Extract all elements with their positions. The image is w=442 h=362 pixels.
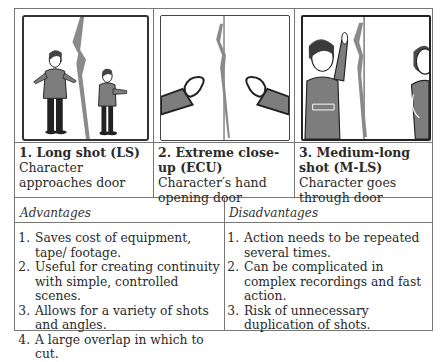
medium-long-shot-panel — [301, 15, 431, 141]
list-item: A large overlap in which to cut. — [34, 333, 220, 362]
hand-right — [246, 77, 289, 114]
long-shot-illustration — [24, 17, 147, 139]
shot-title: 3. Medium-long shot (M-LS) — [299, 145, 433, 175]
extreme-closeup-panel — [160, 15, 290, 141]
medium-long-shot-illustration — [303, 17, 429, 139]
list-item: Risk of unnecessary duplication of shots… — [243, 304, 433, 333]
column-divider — [294, 9, 295, 197]
disadvantages-heading: Disadvantages — [229, 206, 318, 221]
hand-left — [161, 77, 204, 114]
shot-description: Character goes through door — [299, 175, 396, 205]
shot-description: Character′s hand opening door — [158, 175, 267, 205]
list-item: Saves cost of equipment, tape/ footage. — [34, 231, 220, 260]
shot-caption-3: 3. Medium-long shot (M-LS) Character goe… — [299, 145, 433, 205]
shot-description: Character approaches door — [19, 160, 125, 190]
character-figure — [99, 69, 127, 135]
extreme-closeup-illustration — [161, 16, 289, 140]
list-item: Can be complicated in complex recordings… — [243, 260, 433, 304]
list-item: Useful for creating continuity with simp… — [34, 260, 220, 304]
shot-comparison-table: 1. Long shot (LS) Character approaches d… — [14, 8, 433, 331]
shot-caption-2: 2. Extreme close-up (ECU) Character′s ha… — [158, 145, 292, 205]
column-divider — [153, 9, 154, 197]
shot-title: 1. Long shot (LS) — [19, 145, 151, 160]
row-divider — [15, 142, 432, 143]
shot-title: 2. Extreme close-up (ECU) — [158, 145, 292, 175]
disadvantages-list: Action needs to be repeated several time… — [227, 231, 433, 333]
advantages-list: Saves cost of equipment, tape/ footage. … — [18, 231, 220, 362]
list-item: Allows for a variety of shots and angles… — [34, 304, 220, 333]
advantages-heading: Advantages — [20, 206, 91, 221]
list-item: Action needs to be repeated several time… — [243, 231, 433, 260]
character-figure — [34, 50, 77, 134]
character-figure — [305, 32, 348, 139]
character-figure — [412, 46, 429, 139]
shot-caption-1: 1. Long shot (LS) Character approaches d… — [19, 145, 151, 190]
long-shot-panel — [22, 15, 149, 141]
column-divider — [224, 197, 225, 331]
